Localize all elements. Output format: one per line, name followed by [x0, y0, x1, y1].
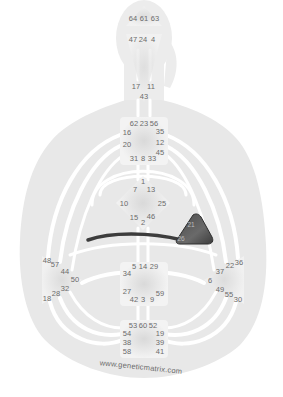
gate-label-14: 14 [139, 263, 147, 271]
gate-label-46: 46 [147, 213, 155, 221]
gate-label-59: 59 [156, 290, 164, 298]
gate-label-33: 33 [148, 155, 156, 163]
gate-label-13: 13 [147, 186, 155, 194]
gate-label-37: 37 [216, 268, 224, 276]
gate-label-42: 42 [130, 296, 138, 304]
gate-label-60: 60 [139, 322, 147, 330]
gate-label-17: 17 [132, 83, 140, 91]
gate-label-18: 18 [43, 295, 51, 303]
gate-label-47: 47 [129, 36, 137, 44]
gate-label-7: 7 [133, 186, 137, 194]
gate-label-58: 58 [123, 348, 131, 356]
gate-label-49: 49 [216, 286, 224, 294]
gate-label-2: 2 [141, 219, 145, 227]
gate-label-5: 5 [132, 263, 136, 271]
gate-label-54: 54 [123, 330, 131, 338]
gate-label-21: 21 [187, 222, 194, 229]
gate-label-44: 44 [61, 268, 69, 276]
gate-label-31: 31 [130, 155, 138, 163]
gate-label-41: 41 [156, 348, 164, 356]
gate-label-3: 3 [141, 296, 145, 304]
gate-label-61: 61 [140, 15, 148, 23]
gate-label-16: 16 [123, 129, 131, 137]
gate-label-63: 63 [151, 15, 159, 23]
gate-label-45: 45 [156, 149, 164, 157]
gate-label-10: 10 [120, 200, 128, 208]
gate-label-34: 34 [123, 270, 131, 278]
gate-label-39: 39 [156, 339, 164, 347]
gate-label-35: 35 [156, 128, 164, 136]
gate-label-36: 36 [235, 259, 243, 267]
gate-label-24: 24 [139, 36, 147, 44]
gate-label-43: 43 [140, 93, 148, 101]
gate-label-4: 4 [151, 36, 155, 44]
gate-label-15: 15 [130, 214, 138, 222]
gate-label-22: 22 [226, 262, 234, 270]
gate-label-64: 64 [129, 15, 137, 23]
gate-label-26: 26 [177, 236, 184, 243]
gate-label-25: 25 [158, 200, 166, 208]
gate-label-11: 11 [147, 83, 155, 91]
gate-label-8: 8 [141, 155, 145, 163]
gate-label-9: 9 [150, 296, 154, 304]
gate-label-6: 6 [208, 277, 212, 285]
gate-label-1: 1 [141, 178, 145, 186]
gate-label-62: 62 [130, 120, 138, 128]
gate-label-38: 38 [123, 339, 131, 347]
bodygraph-svg [0, 0, 283, 397]
gate-label-20: 20 [123, 141, 131, 149]
bodygraph-chart: 6461634724417114362235616352012453183317… [0, 0, 283, 397]
gate-label-28: 28 [52, 290, 60, 298]
gate-label-50: 50 [71, 276, 79, 284]
gate-label-29: 29 [150, 263, 158, 271]
gate-label-55: 55 [225, 291, 233, 299]
gate-label-19: 19 [156, 330, 164, 338]
gate-label-30: 30 [234, 296, 242, 304]
gate-label-57: 57 [51, 261, 59, 269]
gate-label-32: 32 [61, 285, 69, 293]
gate-label-23: 23 [140, 120, 148, 128]
gate-label-12: 12 [156, 139, 164, 147]
